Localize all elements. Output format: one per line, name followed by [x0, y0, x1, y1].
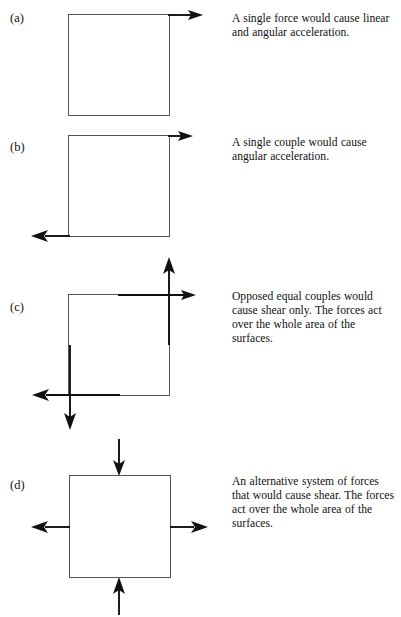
body-square: [69, 136, 170, 237]
panel-b-caption: A single couple would cause angular acce…: [232, 136, 397, 164]
body-square: [70, 476, 171, 578]
panel-a: (a) A single force would cause linear an…: [0, 0, 401, 130]
panel-b: (b) A single couple would cause angular …: [0, 128, 401, 250]
panel-d-caption: An alternative system of forces that wou…: [232, 475, 397, 532]
panel-a-caption: A single force would cause linear and an…: [232, 12, 397, 40]
force-systems-figure: (a) A single force would cause linear an…: [0, 0, 401, 617]
body-square: [69, 295, 170, 396]
panel-d: (d) An alternative system of forces that…: [0, 437, 401, 617]
body-square: [69, 15, 170, 116]
panel-c-caption: Opposed equal couples would cause shear …: [232, 290, 397, 347]
panel-c: (c) Opposed equal couples would cause sh…: [0, 255, 401, 435]
